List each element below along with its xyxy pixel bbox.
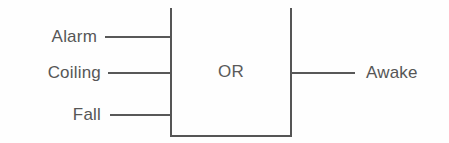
input-label-alarm: Alarm	[0, 28, 97, 45]
input-label-fall: Fall	[0, 106, 101, 123]
gate-box-bottom-edge	[170, 135, 292, 137]
output-label-awake: Awake	[366, 64, 418, 81]
input-wire-alarm	[105, 36, 171, 38]
input-label-coiling: Coiling	[0, 64, 101, 81]
input-wire-coiling	[108, 72, 171, 74]
gate-label: OR	[170, 63, 292, 80]
input-wire-fall	[110, 114, 171, 116]
output-wire-awake	[291, 72, 355, 74]
or-gate-diagram: Alarm Coiling Fall OR Awake	[0, 0, 449, 143]
